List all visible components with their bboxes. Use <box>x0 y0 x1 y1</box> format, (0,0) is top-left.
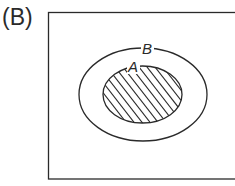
set-b-ellipse <box>79 48 207 141</box>
set-b-label: B <box>142 40 152 57</box>
set-a-label: A <box>127 58 138 75</box>
set-a-ellipse <box>103 66 182 123</box>
venn-diagram: B A <box>0 0 235 186</box>
